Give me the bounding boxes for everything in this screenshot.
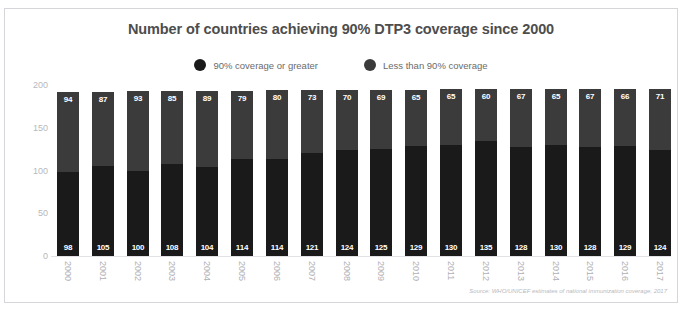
bar-segment-below-90[interactable]: 65 [405, 90, 427, 146]
bar-value-label: 71 [656, 89, 665, 105]
bar-segment-below-90[interactable]: 67 [510, 89, 532, 146]
bar-segment-below-90[interactable]: 73 [301, 90, 323, 152]
x-axis-tick-label: 2016 [620, 261, 630, 283]
x-axis-tick-label: 2009 [376, 261, 386, 283]
bar-segment-at-or-above-90[interactable]: 130 [545, 145, 567, 256]
bar-segment-at-or-above-90[interactable]: 125 [370, 149, 392, 256]
bar-column[interactable]: 85108 [161, 91, 183, 256]
bar-column[interactable]: 89104 [196, 91, 218, 256]
chart-legend: 90% coverage or greaterLess than 90% cov… [5, 59, 677, 71]
bar-segment-at-or-above-90[interactable]: 124 [649, 150, 671, 256]
source-note: Source: WHO/UNICEF estimates of national… [469, 288, 667, 294]
bar-segment-at-or-above-90[interactable]: 128 [510, 147, 532, 256]
bar-column[interactable]: 67128 [510, 89, 532, 256]
bar-column[interactable]: 67128 [579, 89, 601, 256]
y-axis-tick-label: 50 [38, 208, 48, 218]
bar-value-label: 73 [308, 90, 317, 106]
bar-segment-at-or-above-90[interactable]: 129 [405, 146, 427, 256]
bar-value-label: 128 [515, 240, 528, 256]
bar-segment-at-or-above-90[interactable]: 105 [92, 166, 114, 256]
bar-value-label: 98 [64, 240, 73, 256]
bar-column[interactable]: 65130 [440, 89, 462, 256]
legend-item-1[interactable]: Less than 90% coverage [364, 59, 488, 71]
bar-segment-below-90[interactable]: 89 [196, 91, 218, 167]
legend-item-label: Less than 90% coverage [383, 60, 488, 71]
bar-segment-at-or-above-90[interactable]: 104 [196, 167, 218, 256]
bar-value-label: 94 [64, 92, 73, 108]
y-axis-tick-label: 0 [43, 251, 48, 261]
x-axis-tick-label: 2011 [446, 261, 456, 283]
chart-title: Number of countries achieving 90% DTP3 c… [5, 21, 677, 37]
bar-segment-below-90[interactable]: 80 [266, 90, 288, 158]
bar-column[interactable]: 71124 [649, 89, 671, 256]
bar-value-label: 80 [273, 90, 282, 106]
bar-segment-below-90[interactable]: 93 [127, 91, 149, 171]
bar-value-label: 67 [586, 89, 595, 105]
bar-value-label: 89 [203, 91, 212, 107]
bar-column[interactable]: 66129 [614, 89, 636, 256]
bar-column[interactable]: 79114 [231, 91, 253, 256]
legend-swatch-icon [194, 59, 206, 71]
bar-segment-at-or-above-90[interactable]: 100 [127, 171, 149, 257]
cutoff-heading-text [0, 0, 684, 4]
bar-value-label: 65 [552, 89, 561, 105]
bar-segment-at-or-above-90[interactable]: 129 [614, 146, 636, 256]
x-axis-tick-label: 2010 [411, 261, 421, 283]
bar-value-label: 108 [166, 240, 179, 256]
bar-value-label: 60 [482, 89, 491, 105]
bar-value-label: 67 [517, 89, 526, 105]
bar-value-label: 65 [447, 89, 456, 105]
bar-segment-at-or-above-90[interactable]: 108 [161, 164, 183, 256]
bar-segment-below-90[interactable]: 60 [475, 89, 497, 140]
bar-column[interactable]: 70124 [336, 90, 358, 256]
bar-value-label: 124 [341, 240, 354, 256]
plot-area: 9498871059310085108891047911480114731217… [57, 85, 671, 256]
bar-value-label: 104 [201, 240, 214, 256]
bar-value-label: 128 [584, 240, 597, 256]
bar-segment-below-90[interactable]: 66 [614, 89, 636, 145]
x-axis-tick-label: 2002 [133, 261, 143, 283]
bar-value-label: 93 [134, 91, 143, 107]
bar-value-label: 129 [619, 240, 632, 256]
bar-value-label: 135 [480, 240, 493, 256]
bar-segment-below-90[interactable]: 65 [440, 89, 462, 145]
bar-column[interactable]: 65129 [405, 90, 427, 256]
bar-segment-below-90[interactable]: 70 [336, 90, 358, 150]
bar-value-label: 66 [621, 89, 630, 105]
bar-segment-at-or-above-90[interactable]: 114 [266, 159, 288, 256]
bar-segment-below-90[interactable]: 85 [161, 91, 183, 164]
x-axis-tick-label: 2014 [551, 261, 561, 283]
bar-segment-below-90[interactable]: 94 [57, 92, 79, 172]
bar-column[interactable]: 69125 [370, 90, 392, 256]
bar-column[interactable]: 80114 [266, 90, 288, 256]
bar-segment-at-or-above-90[interactable]: 114 [231, 159, 253, 256]
x-axis-tick-label: 2013 [516, 261, 526, 283]
x-axis-tick-label: 2015 [585, 261, 595, 283]
bar-segment-at-or-above-90[interactable]: 98 [57, 172, 79, 256]
bar-segment-at-or-above-90[interactable]: 121 [301, 153, 323, 256]
bar-segment-below-90[interactable]: 71 [649, 89, 671, 150]
bar-value-label: 87 [99, 92, 108, 108]
y-axis-tick-label: 150 [33, 123, 48, 133]
bar-column[interactable]: 9498 [57, 92, 79, 256]
bar-column[interactable]: 60135 [475, 89, 497, 256]
bar-segment-below-90[interactable]: 79 [231, 91, 253, 159]
bar-segment-at-or-above-90[interactable]: 130 [440, 145, 462, 256]
bar-value-label: 125 [375, 240, 388, 256]
bar-segment-at-or-above-90[interactable]: 124 [336, 150, 358, 256]
x-axis-tick-label: 2000 [63, 261, 73, 283]
bar-column[interactable]: 65130 [545, 89, 567, 256]
y-axis-tick-label: 100 [33, 166, 48, 176]
bar-column[interactable]: 73121 [301, 90, 323, 256]
bar-column[interactable]: 93100 [127, 91, 149, 256]
bar-segment-below-90[interactable]: 67 [579, 89, 601, 146]
bar-segment-at-or-above-90[interactable]: 135 [475, 141, 497, 256]
bar-segment-at-or-above-90[interactable]: 128 [579, 147, 601, 256]
bar-column[interactable]: 87105 [92, 92, 114, 256]
bar-value-label: 69 [377, 90, 386, 106]
bar-segment-below-90[interactable]: 87 [92, 92, 114, 166]
bar-segment-below-90[interactable]: 69 [370, 90, 392, 149]
bar-segment-below-90[interactable]: 65 [545, 89, 567, 145]
x-axis-baseline [51, 256, 671, 257]
legend-item-0[interactable]: 90% coverage or greater [194, 59, 318, 71]
